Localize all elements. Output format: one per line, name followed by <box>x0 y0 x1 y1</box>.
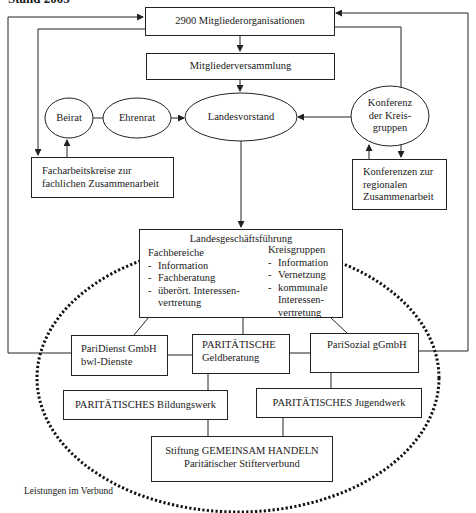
bildungswerk-label: PARITÄTISCHES Bildungswerk <box>75 399 216 412</box>
facharbeitskreise-line-2: fachlichen Zusammenarbeit <box>42 178 173 191</box>
member-orgs-box: 2900 Mitgliederorganisationen <box>145 7 335 36</box>
paridienst-box: PariDienst GmbH bwl-Dienste <box>71 335 168 376</box>
konferenzen-line-2: regionalen <box>363 179 446 192</box>
konferenzen-regional-box: Konferenzen zur regionalen Zusammenarbei… <box>352 159 447 210</box>
assembly-box: Mitgliederversammlung <box>146 53 335 80</box>
verbund-label: Leistungen im Verbund <box>24 485 113 498</box>
kreisgruppen-item: Vernetzung <box>268 269 342 282</box>
member-orgs-label: 2900 Mitgliederorganisationen <box>175 15 305 28</box>
stiftung-line-2: Paritätischer Stifterverbund <box>152 458 332 471</box>
landesvorstand-label: Landesvorstand <box>185 93 297 141</box>
beirat-label: Beirat <box>45 98 93 138</box>
geldberatung-line-2: Geldberatung <box>202 352 289 365</box>
kreisgruppen-item: kommunale <box>268 282 342 295</box>
konferenzen-line-3: Zusammenarbeit <box>363 191 446 204</box>
jugendwerk-box: PARITÄTISCHES Jugendwerk <box>256 388 422 418</box>
stiftung-line-1: Stiftung GEMEINSAM HANDELN <box>152 445 332 458</box>
parisozial-box: PariSozial gGmbH <box>310 333 419 373</box>
fachbereiche-item: überört. Interessen- <box>148 285 258 298</box>
kreisgruppen-item: Information <box>268 257 342 270</box>
fachbereiche-item: Fachberatung <box>148 272 258 285</box>
kreisgruppen-column: Kreisgruppen Information Vernetzung komm… <box>268 244 342 319</box>
geldberatung-box: PARITÄTISCHE Geldberatung <box>192 334 290 374</box>
konferenz-line-1: Konferenz <box>368 97 412 110</box>
diagram-title: Stand 2005 <box>8 0 70 7</box>
fachbereiche-item-cont: vertretung <box>148 297 258 310</box>
stiftung-box: Stiftung GEMEINSAM HANDELN Paritätischer… <box>151 436 333 482</box>
geldberatung-line-1: PARITÄTISCHE <box>202 339 289 352</box>
assembly-label: Mitgliederversammlung <box>190 60 291 73</box>
bildungswerk-box: PARITÄTISCHES Bildungswerk <box>63 390 228 420</box>
konferenz-line-3: gruppen <box>373 122 407 135</box>
ehrenrat-label: Ehrenrat <box>103 98 171 138</box>
fachbereiche-heading: Fachbereiche <box>148 247 258 260</box>
konferenz-kreisgruppen-label: Konferenz der Kreis- gruppen <box>351 86 429 146</box>
konferenzen-line-1: Konferenzen zur <box>363 166 446 179</box>
kreisgruppen-item-cont: vertretung <box>268 307 342 320</box>
fachbereiche-item: Information <box>148 260 258 273</box>
paridienst-line-1: PariDienst GmbH <box>81 343 167 356</box>
kreisgruppen-heading: Kreisgruppen <box>268 244 342 257</box>
facharbeitskreise-line-1: Facharbeitskreise zur <box>42 165 173 178</box>
parisozial-label: PariSozial gGmbH <box>327 339 418 352</box>
fachbereiche-column: Fachbereiche Information Fachberatung üb… <box>148 247 258 310</box>
facharbeitskreise-box: Facharbeitskreise zur fachlichen Zusamme… <box>31 157 174 198</box>
paridienst-line-2: bwl-Dienste <box>81 356 167 369</box>
landesgeschaeftsfuehrung-box: Landesgeschäftsführung Fachbereiche Info… <box>139 229 343 318</box>
konferenz-line-2: der Kreis- <box>369 110 411 123</box>
kreisgruppen-item-cont: Interessen- <box>268 294 342 307</box>
jugendwerk-label: PARITÄTISCHES Jugendwerk <box>273 397 406 410</box>
